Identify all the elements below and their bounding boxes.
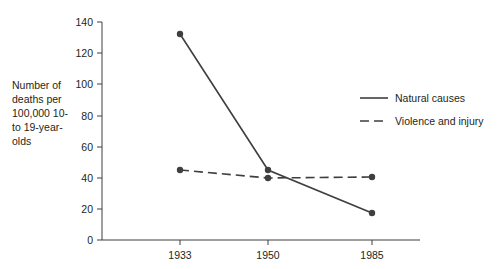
series-line-solid	[180, 34, 372, 213]
y-tick-label: 120	[75, 47, 93, 59]
chart-figure: Number of deaths per 100,000 10- to 19-y…	[0, 0, 502, 269]
y-tick-label: 60	[81, 141, 93, 153]
x-tick-label: 1950	[256, 249, 280, 261]
line-chart: 0 20 40 60 80 100 120 140 1933 1950 1985	[0, 0, 502, 269]
x-axis-ticks	[180, 240, 372, 245]
y-tick-label: 140	[75, 16, 93, 28]
series-natural-causes	[177, 31, 375, 216]
y-tick-label: 0	[87, 234, 93, 246]
x-tick-label: 1985	[360, 249, 384, 261]
legend-label-violence-and-injury: Violence and injury	[395, 115, 484, 127]
data-point-marker	[177, 167, 183, 173]
x-tick-label: 1933	[168, 249, 192, 261]
y-axis-ticks	[97, 22, 102, 240]
data-point-marker	[265, 175, 271, 181]
legend-label-natural-causes: Natural causes	[395, 92, 465, 104]
y-tick-label: 100	[75, 78, 93, 90]
y-tick-label: 80	[81, 110, 93, 122]
data-point-marker	[265, 167, 271, 173]
y-tick-label: 40	[81, 172, 93, 184]
data-point-marker	[369, 210, 375, 216]
y-tick-label: 20	[81, 203, 93, 215]
data-point-marker	[177, 31, 183, 37]
data-point-marker	[369, 174, 375, 180]
legend: Natural causes Violence and injury	[360, 92, 484, 127]
